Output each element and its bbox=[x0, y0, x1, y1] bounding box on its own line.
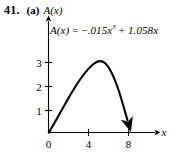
plot-area: 3 2 1 0 4 8 x bbox=[0, 0, 176, 154]
function-curve bbox=[49, 61, 128, 132]
x-tick-label-4: 4 bbox=[86, 138, 92, 150]
figure-container: 41. (a) A(x) A(x) = −.015x3 + 1.058x bbox=[0, 0, 176, 154]
y-tick-label-1: 1 bbox=[36, 105, 42, 117]
x-axis-label: x bbox=[161, 126, 167, 138]
y-tick-label-2: 2 bbox=[36, 81, 42, 93]
plot-svg: 3 2 1 0 4 8 x bbox=[0, 0, 176, 154]
y-tick-label-3: 3 bbox=[36, 57, 42, 69]
x-tick-label-0: 0 bbox=[46, 138, 52, 150]
x-tick-label-8: 8 bbox=[126, 138, 132, 150]
